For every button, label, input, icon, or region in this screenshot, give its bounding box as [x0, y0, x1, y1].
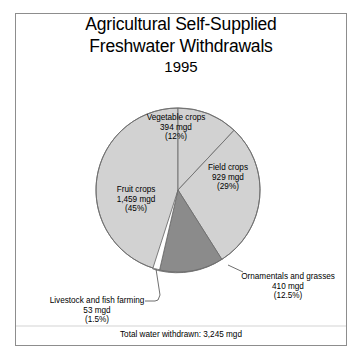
pie-chart-figure: Agricultural Self-Supplied Freshwater Wi…	[0, 0, 362, 359]
slice-label-vegetable-percent: (12%)	[131, 132, 221, 142]
slice-label-field-name: Field crops	[193, 163, 263, 173]
slice-label-livestock-name: Livestock and fish farming	[33, 296, 161, 306]
slice-label-ornamentals-percent: (12.5%)	[226, 291, 350, 301]
slice-label-field-percent: (29%)	[193, 182, 263, 192]
slice-label-ornamentals-and-grasses: Ornamentals and grasses 410 mgd (12.5%)	[226, 272, 350, 301]
slice-label-vegetable-name: Vegetable crops	[131, 113, 221, 123]
slice-label-fruit-crops: Fruit crops 1,459 mgd (45%)	[100, 185, 172, 214]
slice-label-livestock-percent: (1.5%)	[33, 315, 161, 325]
slice-label-fruit-value: 1,459 mgd	[100, 195, 172, 205]
slice-label-vegetable-value: 394 mgd	[131, 123, 221, 133]
slice-label-livestock-and-fish-farming: Livestock and fish farming 53 mgd (1.5%)	[33, 296, 161, 325]
slice-label-field-crops: Field crops 929 mgd (29%)	[193, 163, 263, 192]
ornamentals-leader-line	[228, 265, 243, 272]
slice-label-field-value: 929 mgd	[193, 173, 263, 183]
slice-label-vegetable-crops: Vegetable crops 394 mgd (12%)	[131, 113, 221, 142]
slice-label-livestock-value: 53 mgd	[33, 306, 161, 316]
total-water-withdrawn-note: Total water withdrawn: 3,245 mgd	[15, 330, 347, 340]
slice-label-ornamentals-name: Ornamentals and grasses	[226, 272, 350, 282]
slice-label-fruit-percent: (45%)	[100, 204, 172, 214]
slice-label-fruit-name: Fruit crops	[100, 185, 172, 195]
slice-label-ornamentals-value: 410 mgd	[226, 282, 350, 292]
